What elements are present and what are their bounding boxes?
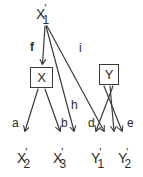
node-y2-sub: 2	[124, 157, 131, 171]
diagram-canvas: X'1 X Y f i h a b d e X'2 X'3 Y'1 Y'2	[0, 0, 143, 177]
node-x3-sub: 3	[59, 157, 66, 171]
edge-label-i: i	[79, 42, 82, 54]
node-label-x2: X'2	[17, 148, 35, 168]
edge-boxX-to-x2	[25, 89, 38, 131]
edge-boxX-to-x3	[45, 89, 60, 131]
edge-root-to-boxX	[43, 26, 46, 64]
node-y1-sub: 1	[97, 157, 104, 171]
box-node-y[interactable]: Y	[99, 64, 119, 85]
edge-label-e: e	[127, 117, 134, 129]
node-label-y2: Y'2	[118, 148, 136, 168]
box-node-x-label: X	[37, 70, 46, 85]
box-node-x[interactable]: X	[30, 67, 53, 88]
node-root-sub: 1	[42, 13, 49, 27]
edge-label-f: f	[30, 41, 34, 53]
edge-label-d: d	[88, 117, 95, 129]
box-node-y-label: Y	[105, 67, 114, 82]
node-label-y1: Y'1	[91, 148, 109, 168]
edge-root-to-y1	[47, 26, 104, 131]
node-label-root: X'1	[36, 4, 54, 24]
node-label-x3: X'3	[53, 148, 71, 168]
node-x2-sub: 2	[23, 157, 30, 171]
edge-label-b: b	[61, 117, 68, 129]
edge-label-h: h	[71, 99, 78, 111]
edge-label-a: a	[12, 117, 19, 129]
